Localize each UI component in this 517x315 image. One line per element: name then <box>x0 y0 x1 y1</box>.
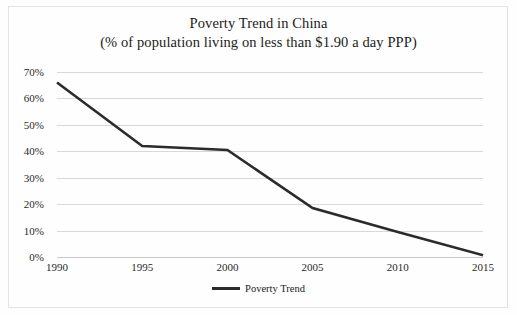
y-axis-tick-70%: 70% <box>24 66 44 78</box>
y-axis-tick-0%: 0% <box>29 251 44 263</box>
x-axis-labels: 199019952000200520102015 <box>57 261 483 279</box>
y-axis-tick-40%: 40% <box>24 145 44 157</box>
y-axis-tick-30%: 30% <box>24 172 44 184</box>
chart-legend: Poverty Trend <box>0 283 517 294</box>
x-axis-tick-1990: 1990 <box>46 261 68 273</box>
chart-title-line-1: Poverty Trend in China <box>0 14 517 33</box>
y-axis-labels: 0%10%20%30%40%50%60%70% <box>0 72 50 257</box>
line-series-poverty-trend <box>57 83 483 256</box>
chart-figure: Poverty Trend in China (% of population … <box>0 0 517 315</box>
y-axis-tick-20%: 20% <box>24 198 44 210</box>
line-swatch-icon <box>212 287 240 290</box>
y-axis-tick-50%: 50% <box>24 119 44 131</box>
x-axis-tick-2015: 2015 <box>472 261 494 273</box>
chart-title-line-2: (% of population living on less than $1.… <box>0 33 517 52</box>
x-axis-tick-2000: 2000 <box>216 261 238 273</box>
y-axis-tick-60%: 60% <box>24 92 44 104</box>
gridline-0 <box>57 257 483 258</box>
x-axis-tick-1995: 1995 <box>131 261 153 273</box>
x-axis-tick-2005: 2005 <box>302 261 324 273</box>
chart-title: Poverty Trend in China (% of population … <box>0 14 517 52</box>
legend-label-poverty-trend: Poverty Trend <box>245 283 305 294</box>
series-layer <box>57 72 483 257</box>
x-axis-tick-2010: 2010 <box>387 261 409 273</box>
y-axis-tick-10%: 10% <box>24 225 44 237</box>
plot-area <box>57 72 483 257</box>
